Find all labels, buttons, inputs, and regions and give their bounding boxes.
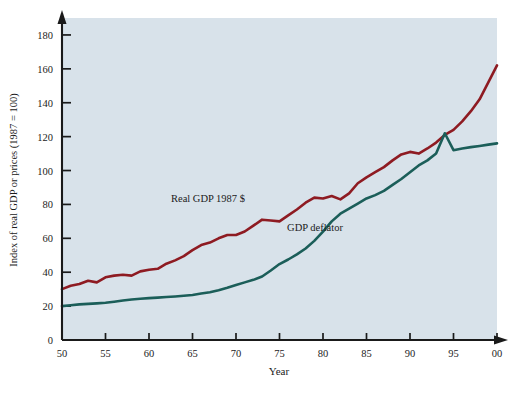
- y-tick-label: 40: [43, 267, 54, 278]
- y-tick-label: 160: [37, 64, 53, 75]
- y-axis-title: Index of real GDP or prices (1987 = 100): [8, 93, 20, 267]
- x-axis-title: Year: [269, 365, 290, 377]
- chart-figure: 5055606570758085909500 02040608010012014…: [0, 0, 521, 393]
- x-axis-arrow: [494, 336, 508, 345]
- x-tick-label: 80: [318, 348, 329, 359]
- y-tick-label: 0: [48, 335, 53, 346]
- x-tick-label: 75: [274, 348, 285, 359]
- y-tick-label: 180: [37, 30, 53, 41]
- x-tick-label: 65: [187, 348, 198, 359]
- line-chart: 5055606570758085909500 02040608010012014…: [0, 0, 521, 393]
- x-tick-label: 85: [361, 348, 372, 359]
- y-tick-label: 60: [43, 233, 54, 244]
- x-tick-label: 55: [100, 348, 111, 359]
- y-axis-arrow: [58, 10, 67, 24]
- plot-background: [62, 18, 497, 340]
- y-tick-label: 140: [37, 98, 53, 109]
- x-tick-label: 70: [231, 348, 242, 359]
- x-tick-label: 50: [57, 348, 68, 359]
- x-tick-label: 60: [144, 348, 155, 359]
- x-tick-label: 90: [405, 348, 416, 359]
- y-tick-label: 100: [37, 166, 53, 177]
- x-tick-label: 95: [448, 348, 459, 359]
- y-tick-label: 20: [43, 301, 54, 312]
- series-annotation: Real GDP 1987 $: [171, 193, 245, 204]
- x-tick-label: 00: [492, 348, 503, 359]
- y-tick-label: 120: [37, 132, 53, 143]
- series-annotation: GDP deflator: [287, 222, 343, 233]
- y-tick-label: 80: [43, 199, 54, 210]
